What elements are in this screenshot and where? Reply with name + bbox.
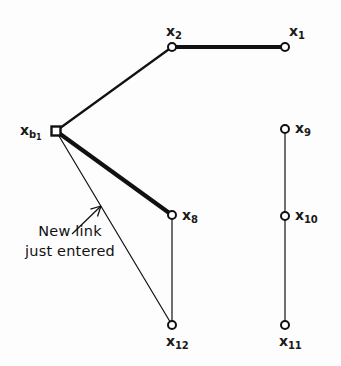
node-label-x10: x10 [295, 208, 318, 222]
link-xb1-x8[interactable] [56, 131, 172, 215]
link-xb1-x2[interactable] [56, 47, 172, 131]
node-label-x2: x2 [166, 24, 182, 38]
annotation-line-2: just entered [8, 242, 132, 262]
node-x1[interactable] [281, 43, 289, 51]
node-label-x1: x1 [289, 24, 305, 38]
node-label-x8: x8 [182, 208, 198, 222]
node-label-x12: x12 [166, 334, 189, 348]
nodes-layer [52, 43, 290, 329]
node-x8[interactable] [168, 211, 176, 219]
annotation-line-1: New link [8, 222, 132, 242]
node-x2[interactable] [168, 43, 176, 51]
node-label-xb1: xb1 [20, 123, 41, 137]
network-link-diagram: x1x2xb1x8x9x10x11x12 New link just enter… [0, 0, 341, 366]
node-label-x9: x9 [295, 121, 311, 135]
links-layer [56, 47, 285, 325]
node-x10[interactable] [281, 212, 289, 220]
node-x11[interactable] [281, 321, 289, 329]
node-xb1[interactable] [52, 127, 61, 136]
graph-canvas [0, 0, 341, 366]
node-x9[interactable] [281, 125, 289, 133]
annotation-text: New link just entered [8, 222, 132, 261]
node-x12[interactable] [168, 321, 176, 329]
node-label-x11: x11 [279, 334, 302, 348]
